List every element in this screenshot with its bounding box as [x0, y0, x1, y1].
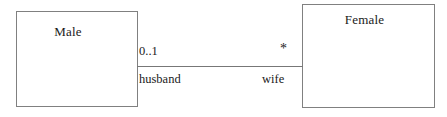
class-box-female[interactable]: Female	[302, 4, 435, 108]
class-name-female: Female	[303, 12, 434, 27]
role-label-wife: wife	[262, 72, 284, 86]
class-box-male[interactable]: Male	[16, 11, 138, 107]
uml-diagram-canvas: Male Female 0..1 * husband wife	[0, 0, 447, 117]
multiplicity-label-target: *	[280, 42, 287, 56]
multiplicity-label-source: 0..1	[139, 44, 158, 58]
class-name-male: Male	[17, 24, 137, 39]
role-label-husband: husband	[139, 72, 181, 86]
association-line[interactable]	[137, 66, 303, 67]
